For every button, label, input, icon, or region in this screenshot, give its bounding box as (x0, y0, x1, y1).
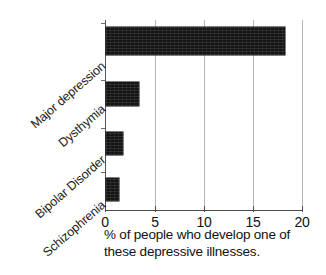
xtick-10 (204, 206, 205, 212)
plot-area: 0 5 10 15 20 (105, 20, 302, 210)
bar-bipolar-disorder (106, 132, 123, 155)
ytick-major-dysthymia (101, 80, 105, 81)
ytick-top (101, 23, 105, 24)
bar-schizophrenia (106, 178, 119, 201)
bar-chart-figure: 0 5 10 15 20 Major depression Dysthymia … (0, 0, 326, 275)
axis-caption: % of people who develop one of these dep… (104, 226, 319, 260)
caption-line-2: these depressive illnesses. (104, 243, 319, 260)
ytick-bipolar-schizophrenia (101, 172, 105, 173)
ytick-dysthymia-bipolar (101, 128, 105, 129)
caption-line-1: % of people who develop one of (104, 226, 319, 243)
gridline-20 (302, 20, 303, 210)
xtick-20 (302, 206, 303, 212)
xtick-15 (253, 206, 254, 212)
xtick-5 (155, 206, 156, 212)
bar-major-depression (106, 27, 285, 55)
bar-dysthymia (106, 82, 139, 106)
